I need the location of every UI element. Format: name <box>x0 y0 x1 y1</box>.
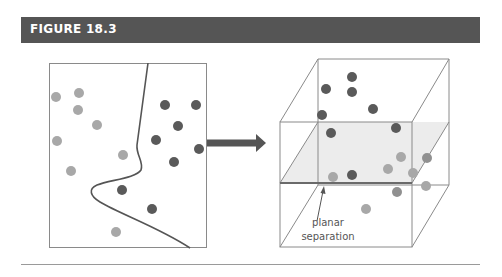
dark-data-point <box>347 72 357 82</box>
mid-data-point <box>392 187 402 197</box>
light-data-point <box>396 152 406 162</box>
dark-data-point <box>194 144 204 154</box>
mid-data-point <box>422 153 432 163</box>
dark-data-point <box>347 170 357 180</box>
dark-data-point <box>347 87 357 97</box>
dark-data-point <box>173 121 183 131</box>
light-data-point <box>73 105 83 115</box>
light-data-point <box>66 166 76 176</box>
annotation-label: planar separation <box>288 216 368 244</box>
separating-plane <box>280 122 449 183</box>
dark-data-point <box>117 185 127 195</box>
annotation-line2: separation <box>288 230 368 244</box>
dark-data-point <box>317 110 327 120</box>
left-panel-box <box>50 64 207 248</box>
light-data-point <box>74 88 84 98</box>
annotation-line1: planar <box>288 216 368 230</box>
dark-data-point <box>321 84 331 94</box>
dark-data-point <box>151 135 161 145</box>
transform-arrow-icon <box>207 134 266 152</box>
light-data-point <box>408 168 418 178</box>
light-data-point <box>383 164 393 174</box>
dark-data-point <box>191 100 201 110</box>
dark-data-point <box>391 123 401 133</box>
dark-data-point <box>169 157 179 167</box>
light-data-point <box>328 172 338 182</box>
light-data-point <box>118 150 128 160</box>
light-data-point <box>92 120 102 130</box>
bottom-rule <box>21 264 480 265</box>
dark-data-point <box>326 128 336 138</box>
light-data-point <box>52 136 62 146</box>
light-data-point <box>51 92 61 102</box>
light-data-point <box>361 204 371 214</box>
left-dots <box>51 88 204 237</box>
nonlinear-boundary <box>91 63 190 248</box>
dark-data-point <box>147 204 157 214</box>
light-data-point <box>421 181 431 191</box>
light-data-point <box>111 227 121 237</box>
figure-diagram <box>0 0 502 277</box>
dark-data-point <box>160 100 170 110</box>
dark-data-point <box>368 104 378 114</box>
